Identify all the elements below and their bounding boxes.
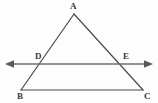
triangle-side-ac [74, 14, 143, 90]
geometry-figure: A B C D E [0, 0, 158, 103]
triangle-side-ab [21, 14, 74, 90]
point-label-d: D [35, 52, 42, 61]
point-label-e: E [123, 52, 129, 61]
geometry-diagram-svg [0, 0, 158, 103]
vertex-label-b: B [17, 92, 23, 101]
vertex-label-a: A [70, 2, 77, 11]
arrow-left-icon [5, 60, 14, 68]
vertex-label-c: C [144, 92, 151, 101]
arrow-right-icon [144, 60, 153, 68]
